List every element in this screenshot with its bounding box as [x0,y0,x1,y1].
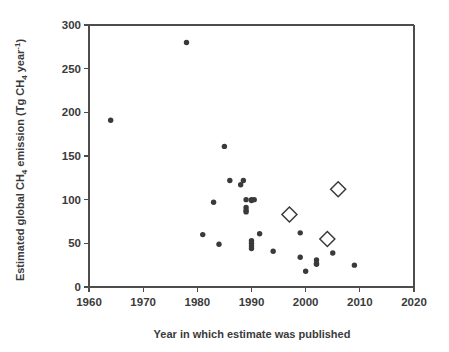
x-axis-tick-label: 2000 [293,296,319,308]
data-point-dot [184,40,189,45]
data-point-dot [108,117,113,122]
data-point-dot [270,248,275,253]
data-point-diamond [282,207,297,222]
data-point-dot [257,231,262,236]
data-point-dot [314,262,319,267]
data-point-dot [330,250,335,255]
x-axis-title: Year in which estimate was published [154,328,351,340]
y-axis-tick-label: 0 [75,281,81,293]
y-axis-tick-label: 200 [62,106,81,118]
x-axis-tick-label: 1970 [130,296,156,308]
data-point-dot [243,209,248,214]
x-axis-tick-label: 2020 [401,296,427,308]
y-axis-tick-label: 150 [62,150,81,162]
data-point-dot [211,200,216,205]
y-axis-tick-label: 50 [68,237,81,249]
data-point-dot [243,197,248,202]
y-axis-tick-label: 100 [62,194,81,206]
chart-tick-labels: 0501001502002503001960197019801990200020… [62,19,427,308]
data-point-dot [241,178,246,183]
y-axis-tick-label: 250 [62,63,81,75]
scatter-chart: 0501001502002503001960197019801990200020… [0,0,449,352]
data-point-dot [216,242,221,247]
data-point-dot [222,144,227,149]
x-axis-tick-label: 1990 [239,296,265,308]
data-point-dot [249,246,254,251]
data-point-diamond [331,182,346,197]
data-point-dot [303,269,308,274]
x-axis-tick-label: 1980 [185,296,211,308]
data-point-dot [200,232,205,237]
data-point-diamond [320,231,335,246]
data-point-dot [298,230,303,235]
y-axis-title: Estimated global CH4 emission (Tg CH4 ye… [13,39,29,282]
chart-data-points [108,40,357,274]
y-axis-tick-label: 300 [62,19,81,31]
data-point-dot [352,262,357,267]
chart-svg: 0501001502002503001960197019801990200020… [0,0,449,352]
x-axis-tick-label: 2010 [347,296,373,308]
chart-ticks [84,25,414,292]
data-point-dot [227,178,232,183]
data-point-dot [252,197,257,202]
data-point-dot [298,255,303,260]
x-axis-tick-label: 1960 [76,296,102,308]
